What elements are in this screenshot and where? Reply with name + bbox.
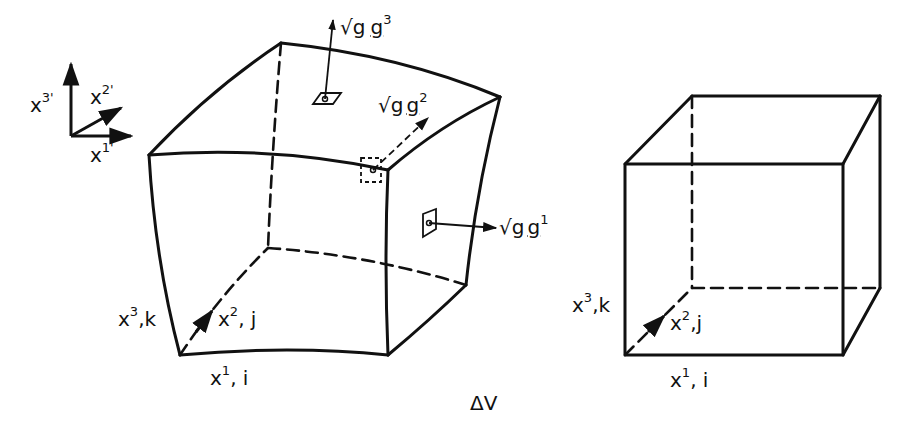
g3-label: √gg3 (340, 12, 391, 39)
x2-direction-arrow (196, 311, 212, 332)
cube-front-face (625, 164, 843, 355)
back-right-edge (466, 97, 500, 285)
curved-volume-element (149, 43, 500, 355)
g2-label: √gg2 (378, 90, 427, 117)
delta-v-label: ΔV (470, 391, 498, 415)
curved-x2-label: x2, j (218, 304, 256, 331)
front-right-edge (386, 170, 388, 355)
hidden-back-bottom-edge (268, 248, 466, 285)
cube-x2-direction-arrow (648, 316, 664, 332)
g1-label: √gg1 (499, 212, 548, 239)
curved-x3-label: x3,k (118, 304, 156, 331)
g2-vector: √gg2 (361, 90, 428, 182)
cube-x1-label: x1, i (670, 365, 708, 392)
hidden-vertical-edge (268, 43, 281, 248)
x2-axis-label: x2' (90, 82, 114, 109)
x3-axis-label: x3' (30, 90, 54, 117)
bottom-right-edge (388, 285, 466, 355)
cube-x3-label: x3,k (572, 290, 610, 317)
x2-axis-arrow (71, 108, 121, 136)
hidden-x2-edge (180, 248, 268, 355)
cube-top-left-edge (625, 96, 692, 164)
top-right-edge (388, 97, 500, 170)
cube-top-right-edge (843, 96, 880, 164)
curved-x1-label: x1, i (210, 363, 248, 390)
front-top-edge (149, 152, 388, 170)
g3-arrow (325, 20, 333, 99)
cube-bottom-right-edge (843, 288, 880, 355)
cube-x2-label: x2,j (670, 308, 702, 335)
top-back-edge (281, 43, 500, 97)
top-left-edge (149, 43, 281, 155)
g1-vector: √gg1 (423, 209, 548, 239)
figure: x3' x2' x1' √gg3 √gg2 (0, 0, 908, 437)
g1-arrow (429, 223, 496, 228)
x1-axis-label: x1' (90, 140, 114, 167)
front-bottom-edge (180, 350, 388, 355)
axes-triad: x3' x2' x1' (30, 64, 131, 167)
